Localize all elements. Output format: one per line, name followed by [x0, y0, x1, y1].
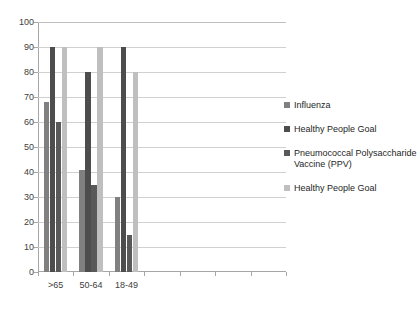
x-axis-category-label: >65: [38, 280, 73, 291]
x-axis-category-label: 18-49: [109, 280, 144, 291]
bar: [44, 102, 50, 272]
x-axis-tick-mark: [73, 272, 74, 276]
bar-groups: [38, 22, 286, 272]
legend-item[interactable]: Healthy People Goal: [284, 124, 417, 135]
x-axis-category-label: 50-64: [73, 280, 108, 291]
legend-label: Healthy People Goal: [294, 183, 377, 194]
bar: [91, 185, 97, 273]
legend-label: Influenza: [294, 100, 331, 111]
y-axis-tick-label: 20: [4, 218, 34, 227]
x-axis-tick-mark: [251, 272, 252, 276]
legend-label: Healthy People Goal: [294, 124, 377, 135]
y-axis-tick-label: 90: [4, 43, 34, 52]
legend-label: Pneumococcal Polysaccharide Vaccine (PPV…: [294, 148, 417, 170]
y-axis-tick-label: 10: [4, 243, 34, 252]
bar: [127, 235, 133, 273]
x-axis-tick-mark: [180, 272, 181, 276]
y-axis-tick-label: 40: [4, 168, 34, 177]
legend-swatch-icon: [284, 102, 290, 108]
x-axis-labels: >6550-6418-49: [38, 280, 287, 296]
bar-group: [79, 22, 103, 272]
legend-item[interactable]: Influenza: [284, 100, 417, 111]
chart-legend: InfluenzaHealthy People GoalPneumococcal…: [284, 100, 417, 207]
bar: [50, 47, 56, 272]
bar: [133, 72, 139, 272]
y-axis-tick-label: 80: [4, 68, 34, 77]
bar: [79, 170, 85, 273]
x-axis-tick-mark: [144, 272, 145, 276]
bar: [121, 47, 127, 272]
x-axis-tick-mark: [215, 272, 216, 276]
bar-group: [115, 22, 139, 272]
bar-chart: 1009080706050403020100 >6550-6418-49 Inf…: [0, 0, 419, 309]
x-axis-tick-mark: [109, 272, 110, 276]
y-axis-tick-label: 60: [4, 118, 34, 127]
bar: [115, 197, 121, 272]
bar: [62, 47, 68, 272]
y-axis-tick-label: 50: [4, 143, 34, 152]
y-axis-tick-label: 0: [4, 268, 34, 277]
bar: [97, 47, 103, 272]
x-axis-tick-mark: [38, 272, 39, 276]
legend-item[interactable]: Healthy People Goal: [284, 183, 417, 194]
x-axis-tick-mark: [286, 272, 287, 276]
y-axis-tick-label: 30: [4, 193, 34, 202]
legend-swatch-icon: [284, 185, 290, 191]
bar-group: [44, 22, 68, 272]
x-axis-ticks: [38, 272, 287, 280]
bar: [85, 72, 91, 272]
legend-swatch-icon: [284, 126, 290, 132]
bar: [56, 122, 62, 272]
legend-item[interactable]: Pneumococcal Polysaccharide Vaccine (PPV…: [284, 148, 417, 170]
y-axis: 1009080706050403020100: [0, 22, 34, 272]
plot-area: [38, 22, 286, 272]
y-axis-tick-label: 70: [4, 93, 34, 102]
legend-swatch-icon: [284, 150, 290, 156]
y-axis-tick-label: 100: [4, 18, 34, 27]
